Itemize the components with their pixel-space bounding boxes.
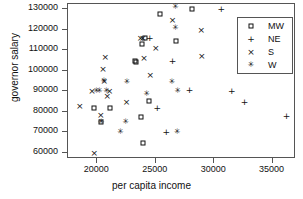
y-axis-tick: [62, 8, 67, 9]
legend-item-w: W: [238, 59, 292, 72]
data-point-ne: [168, 56, 177, 65]
data-point-s: [90, 148, 99, 157]
chart-legend: MWNESW: [237, 17, 293, 74]
data-point-mw: [189, 7, 194, 12]
data-point-s: [140, 54, 149, 63]
data-point-w: [97, 118, 106, 127]
y-axis-tick-label: 70000: [2, 126, 58, 135]
data-point-mw: [141, 141, 146, 146]
data-point-w: [102, 87, 111, 96]
data-point-mw: [108, 105, 113, 110]
y-axis-tick: [62, 131, 67, 132]
data-point-s: [122, 97, 131, 106]
data-point-mw: [134, 59, 139, 64]
data-point-s: [197, 25, 206, 34]
x-axis-label: per capita income: [0, 180, 303, 191]
data-point-mw: [173, 39, 178, 44]
data-point-mw: [158, 12, 163, 17]
data-point-s: [146, 70, 155, 79]
data-point-w: [100, 77, 109, 86]
x-axis-tick-label: 30000: [188, 165, 238, 174]
x-axis-tick-label: 25000: [130, 165, 180, 174]
data-point-ne: [282, 111, 291, 120]
x-axis-tick: [213, 158, 214, 163]
legend-item-label: MW: [268, 20, 284, 33]
asterisk-icon: [247, 61, 256, 70]
legend-item-mw: MW: [238, 20, 292, 33]
data-point-w: [116, 128, 125, 137]
data-point-w: [171, 3, 180, 12]
data-point-ne: [240, 97, 249, 106]
data-point-w: [121, 117, 130, 126]
y-axis-tick-label: 130000: [2, 3, 58, 12]
data-point-s: [151, 44, 160, 53]
data-point-ne: [153, 103, 162, 112]
y-axis-tick-label: 60000: [2, 147, 58, 156]
data-point-s: [75, 101, 84, 110]
data-point-ne: [217, 5, 226, 14]
data-point-mw: [138, 114, 143, 119]
square-icon: [249, 24, 254, 29]
data-point-s: [101, 53, 110, 62]
y-axis-label: governor salary: [9, 18, 20, 118]
data-point-w: [173, 128, 182, 137]
data-point-s: [99, 64, 108, 73]
legend-item-label: W: [268, 59, 277, 72]
legend-item-s: S: [238, 46, 292, 59]
data-point-ne: [227, 87, 236, 96]
legend-item-label: NE: [268, 33, 281, 46]
data-point-ne: [185, 86, 194, 95]
x-axis-tick-label: 20000: [71, 165, 121, 174]
x-axis-tick: [155, 158, 156, 163]
y-axis-tick: [62, 49, 67, 50]
plot-frame: MWNESW: [67, 3, 295, 158]
data-point-w: [171, 23, 180, 32]
y-axis-tick: [62, 29, 67, 30]
y-axis-tick: [62, 90, 67, 91]
data-point-s: [138, 33, 147, 42]
data-point-s: [197, 52, 206, 61]
y-axis-tick: [62, 70, 67, 71]
legend-item-label: S: [268, 46, 274, 59]
x-axis-tick-label: 35000: [247, 165, 297, 174]
cross-icon: [247, 48, 256, 57]
x-axis-tick: [272, 158, 273, 163]
x-axis-tick: [96, 158, 97, 163]
y-axis-tick: [62, 111, 67, 112]
y-axis-tick: [62, 152, 67, 153]
legend-item-ne: NE: [238, 33, 292, 46]
plus-icon: [247, 35, 256, 44]
scatter-chart: MWNESW 600007000080000900001000001100001…: [0, 0, 303, 199]
data-point-w: [173, 87, 182, 96]
data-point-w: [123, 78, 132, 87]
data-point-w: [142, 90, 151, 99]
data-point-ne: [162, 128, 171, 137]
